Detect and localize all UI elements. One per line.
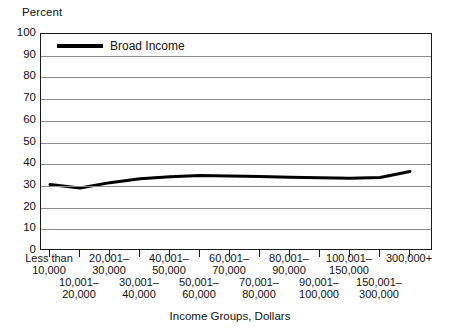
x-tick-label: 90,001–100,000 [299,276,339,300]
x-tick-label-line1: 70,001– [239,276,279,288]
x-tick-label: 150,001–300,000 [356,276,402,300]
gridline [41,56,431,57]
x-tick-label-line2: 60,000 [179,288,219,300]
x-tick-label-line2: 100,000 [299,288,339,300]
x-tick-label: 100,001–150,000 [326,252,372,276]
legend-swatch-broad-income [57,44,103,47]
x-tick-label-line1: 40,001– [149,252,189,264]
x-tick-label-line1: 80,001– [269,252,309,264]
x-tick-label-line2: 300,000 [356,288,402,300]
x-tick-label-line2: 70,000 [209,264,249,276]
x-tick-label-line1: 20,001– [89,252,129,264]
y-tick-label: 60 [2,114,36,126]
x-tick-label: 70,001–80,000 [239,276,279,300]
gridline [41,121,431,122]
x-axis-tick-labels: Less than10,00010,001–20,00020,001–30,00… [0,252,460,312]
x-tick-label: 20,001–30,000 [89,252,129,276]
chart-legend: Broad Income [57,40,185,52]
gridline [41,143,431,144]
chart-figure: Percent 1009080706050403020100 Broad Inc… [0,0,460,335]
x-tick-label: 60,001–70,000 [209,252,249,276]
x-tick-label-line1: 10,001– [59,276,99,288]
plot-area [40,33,432,250]
x-tick-label-line2: 80,000 [239,288,279,300]
x-tick-label-line1: 60,001– [209,252,249,264]
x-tick-label-line1: 100,001– [326,252,372,264]
x-axis-title: Income Groups, Dollars [0,310,460,322]
x-tick-label: 10,001–20,000 [59,276,99,300]
gridline [41,99,431,100]
x-tick-label-line2: 40,000 [119,288,159,300]
x-tick-label-line2: 10,000 [25,264,73,276]
gridline [41,186,431,187]
x-tick-label-line1: 90,001– [299,276,339,288]
x-tick-label-line2: 50,000 [149,264,189,276]
y-tick-label: 10 [2,222,36,234]
y-tick-label: 40 [2,157,36,169]
x-tick-label-line1: 50,001– [179,276,219,288]
y-tick-label: 30 [2,179,36,191]
x-tick-label-line2: 30,000 [89,264,129,276]
legend-label-broad-income: Broad Income [110,40,185,52]
y-tick-label: 90 [2,49,36,61]
gridline [41,77,431,78]
x-tick-label: 50,001–60,000 [179,276,219,300]
x-tick-label-line2: 150,000 [326,264,372,276]
x-tick-label: 30,001–40,000 [119,276,159,300]
gridline [41,229,431,230]
gridline [41,164,431,165]
x-tick-label: 80,001–90,000 [269,252,309,276]
x-tick-label-line2: 90,000 [269,264,309,276]
y-tick-label: 100 [2,27,36,39]
y-tick-label: 70 [2,92,36,104]
x-tick-label-line1: 30,001– [119,276,159,288]
x-tick-label-line1: 150,001– [356,276,402,288]
x-tick-label-line1: 300,000+ [386,252,432,264]
x-tick-label-line1: Less than [25,252,73,264]
x-tick-label-line2: 20,000 [59,288,99,300]
x-tick-label: 40,001–50,000 [149,252,189,276]
y-tick-label: 20 [2,201,36,213]
y-tick-label: 80 [2,70,36,82]
x-tick-label: Less than10,000 [25,252,73,276]
y-tick-label: 50 [2,136,36,148]
gridline [41,208,431,209]
x-tick-label: 300,000+ [386,252,432,264]
